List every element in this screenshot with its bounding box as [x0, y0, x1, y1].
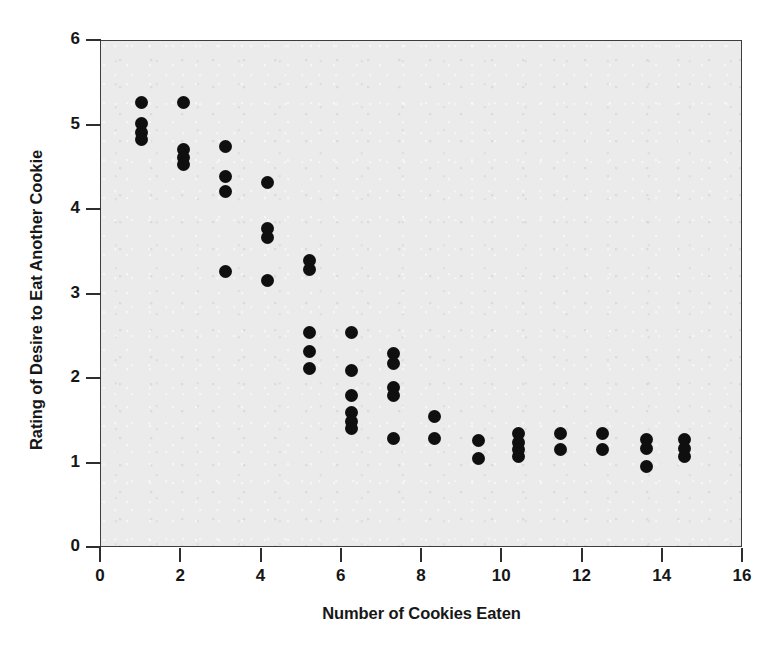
- data-point: [472, 452, 485, 465]
- data-point: [554, 427, 567, 440]
- data-point: [261, 274, 274, 287]
- x-tick-mark: [581, 548, 583, 562]
- y-tick-mark: [86, 462, 101, 464]
- x-tick-mark: [340, 548, 342, 562]
- data-point: [135, 133, 148, 146]
- data-point: [177, 96, 190, 109]
- y-tick-label: 5: [44, 114, 80, 134]
- x-tick-label: 4: [241, 566, 281, 586]
- data-point: [219, 185, 232, 198]
- y-tick-label: 4: [44, 198, 80, 218]
- y-tick-label: 1: [44, 452, 80, 472]
- x-tick-label: 14: [642, 566, 682, 586]
- y-tick-mark: [86, 377, 101, 379]
- data-point: [345, 389, 358, 402]
- x-tick-mark: [661, 548, 663, 562]
- data-point: [303, 362, 316, 375]
- data-point: [345, 364, 358, 377]
- data-point: [261, 231, 274, 244]
- data-point: [640, 442, 653, 455]
- y-tick-mark: [86, 293, 101, 295]
- x-tick-label: 6: [321, 566, 361, 586]
- data-point: [303, 326, 316, 339]
- x-tick-mark: [741, 548, 743, 562]
- x-tick-label: 16: [722, 566, 762, 586]
- data-point: [135, 96, 148, 109]
- data-point: [596, 443, 609, 456]
- data-point: [387, 389, 400, 402]
- data-point: [640, 460, 653, 473]
- scatter-plot-figure: Rating of Desire to Eat Another Cookie 0…: [0, 0, 774, 652]
- data-point: [428, 410, 441, 423]
- data-point: [261, 176, 274, 189]
- data-point: [177, 158, 190, 171]
- data-point: [219, 265, 232, 278]
- x-tick-mark: [500, 548, 502, 562]
- data-point: [472, 434, 485, 447]
- x-tick-mark: [99, 548, 101, 562]
- y-tick-label: 2: [44, 367, 80, 387]
- y-tick-mark: [86, 208, 101, 210]
- data-point: [303, 263, 316, 276]
- x-tick-label: 0: [80, 566, 120, 586]
- x-tick-mark: [420, 548, 422, 562]
- x-tick-mark: [179, 548, 181, 562]
- y-tick-label: 0: [44, 536, 80, 556]
- x-tick-label: 10: [481, 566, 521, 586]
- data-point: [303, 345, 316, 358]
- data-point: [554, 443, 567, 456]
- y-tick-mark: [86, 124, 101, 126]
- data-point: [596, 427, 609, 440]
- x-tick-label: 2: [160, 566, 200, 586]
- y-tick-label: 3: [44, 283, 80, 303]
- plot-area: [100, 40, 742, 547]
- x-tick-mark: [260, 548, 262, 562]
- data-point: [345, 422, 358, 435]
- y-tick-mark: [86, 39, 101, 41]
- data-point: [387, 432, 400, 445]
- data-point: [219, 140, 232, 153]
- x-axis-title: Number of Cookies Eaten: [100, 604, 743, 623]
- x-tick-label: 8: [401, 566, 441, 586]
- x-tick-label: 12: [562, 566, 602, 586]
- data-point: [512, 450, 525, 463]
- data-point: [678, 450, 691, 463]
- data-point: [428, 432, 441, 445]
- data-point: [219, 170, 232, 183]
- y-tick-label: 6: [44, 29, 80, 49]
- data-point: [387, 357, 400, 370]
- data-point: [345, 326, 358, 339]
